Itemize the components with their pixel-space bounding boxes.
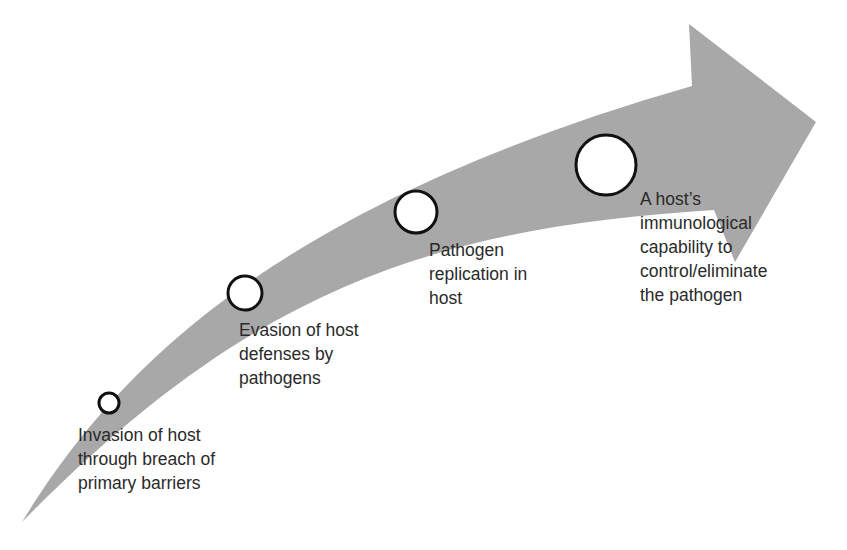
stage-4-label: A host’s immunological capability to con…	[640, 187, 767, 307]
stage-3-marker-circle	[395, 191, 437, 233]
stage-1-label: Invasion of host through breach of prima…	[78, 423, 215, 495]
stage-3-label: Pathogen replication in host	[429, 238, 527, 310]
stage-1-marker-circle	[99, 393, 119, 413]
stage-4-marker-circle	[576, 135, 636, 195]
stage-2-label: Evasion of host defenses by pathogens	[239, 318, 359, 390]
stage-2-marker-circle	[228, 276, 262, 310]
